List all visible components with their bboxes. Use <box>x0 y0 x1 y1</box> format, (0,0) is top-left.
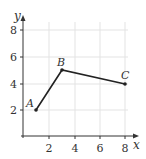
x-tick-2: 2 <box>46 142 53 155</box>
coordinate-chart: 2 4 6 8 2 4 6 8 y x A B C <box>0 0 146 159</box>
x-axis-label: x <box>133 138 140 152</box>
axes <box>20 20 134 139</box>
point-c <box>123 82 127 86</box>
y-axis-label: y <box>13 9 21 23</box>
chart-canvas: 2 4 6 8 2 4 6 8 y x A B C <box>0 0 146 159</box>
y-tick-8: 8 <box>10 24 17 37</box>
y-tick-6: 6 <box>10 51 17 64</box>
y-axis-arrow-icon <box>21 15 26 21</box>
point-b-label: B <box>56 56 65 69</box>
x-tick-6: 6 <box>97 142 104 155</box>
x-tick-8: 8 <box>122 142 129 155</box>
point-a-label: A <box>25 97 34 110</box>
point-c-label: C <box>121 69 130 82</box>
y-tick-2: 2 <box>10 104 17 117</box>
grid <box>23 22 128 136</box>
point-a <box>34 108 38 112</box>
x-tick-4: 4 <box>72 142 79 155</box>
y-tick-4: 4 <box>10 78 17 91</box>
